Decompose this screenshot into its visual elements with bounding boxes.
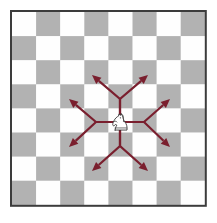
board-square: [60, 157, 84, 182]
board-square: [108, 181, 132, 206]
board-square: [157, 60, 182, 84]
board-square: [60, 181, 84, 206]
board-square: [157, 157, 182, 182]
board-square: [12, 60, 37, 84]
knight-eye: [120, 117, 121, 118]
board-square: [36, 108, 61, 132]
board-square: [108, 157, 132, 182]
board-square: [60, 60, 84, 84]
board-square: [181, 84, 206, 109]
board-square: [108, 36, 132, 61]
board-square: [133, 133, 158, 158]
board-square: [84, 181, 109, 206]
board-square: [12, 181, 37, 206]
board-square: [12, 108, 37, 132]
board-square: [133, 36, 158, 61]
board-square: [60, 108, 84, 132]
board-square: [181, 60, 206, 84]
board-square: [84, 84, 109, 109]
board-square: [36, 133, 61, 158]
board-square: [36, 157, 61, 182]
board-square: [84, 36, 109, 61]
board-squares: [12, 12, 205, 205]
board-square: [181, 108, 206, 132]
board-square: [133, 84, 158, 109]
board-square: [157, 36, 182, 61]
knight-move-figure: [0, 0, 217, 223]
board-square: [181, 181, 206, 206]
board-square: [133, 12, 158, 37]
board-square: [84, 133, 109, 158]
board-square: [36, 36, 61, 61]
board-square: [181, 157, 206, 182]
board-square: [36, 12, 61, 37]
board-square: [12, 84, 37, 109]
board-square: [60, 36, 84, 61]
board-square: [36, 84, 61, 109]
board-square: [157, 84, 182, 109]
board-square: [181, 12, 206, 37]
board-square: [157, 12, 182, 37]
board-square: [181, 36, 206, 61]
board-square: [133, 181, 158, 206]
board-square: [12, 133, 37, 158]
board-square: [36, 181, 61, 206]
board-square: [60, 12, 84, 37]
board-square: [12, 12, 37, 37]
board-square: [108, 60, 132, 84]
board-square: [12, 157, 37, 182]
board-square: [36, 60, 61, 84]
board-square: [157, 181, 182, 206]
board-square: [108, 12, 132, 37]
board-square: [181, 133, 206, 158]
board-square: [12, 36, 37, 61]
board-square: [157, 108, 182, 132]
board-square: [84, 12, 109, 37]
chessboard-diagram: [0, 0, 217, 223]
